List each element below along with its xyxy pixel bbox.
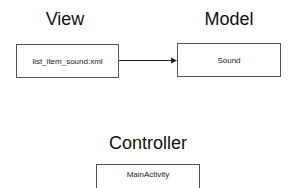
controller-heading: Controller [88,133,208,153]
controller-component-label: MainActivity [127,170,170,179]
view-to-model-arrow [0,0,290,188]
controller-component-box: MainActivity [96,164,200,188]
arrowhead-icon [171,58,177,64]
